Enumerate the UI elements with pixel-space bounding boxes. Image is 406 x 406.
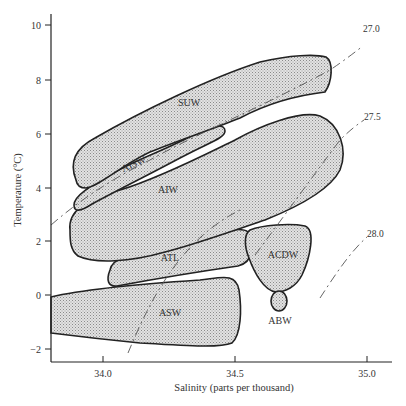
y-tick-10: 10 [31,20,41,31]
isopycnal-28-0-b [320,237,367,298]
y-tick-6: 6 [36,129,41,140]
label-suw: SUW [178,97,201,108]
x-ticks: 34.0 34.5 35.0 [94,356,376,379]
y-tick-8: 8 [36,75,41,86]
y-tick-0: 0 [36,290,41,301]
label-asw: ASW [159,307,182,318]
ts-diagram: SUW AISW AIW ATL ACDW ABW ASW 27.0 27.5 … [0,0,406,406]
x-tick-34-0: 34.0 [94,368,112,379]
region-abw [271,291,287,311]
y-tick-minus-2: −2 [30,344,41,355]
isopycnal-labels: 27.0 27.5 28.0 [363,24,384,239]
y-ticks: 10 8 6 4 2 0 −2 [30,20,51,355]
label-iso-27-5: 27.5 [364,112,381,122]
label-iso-27-0: 27.0 [363,24,380,34]
y-axis-title: Temperature (°C) [12,153,24,227]
x-axis-title: Salinity (parts per thousand) [174,382,294,394]
region-asw [51,277,241,346]
y-tick-2: 2 [36,236,41,247]
label-abw: ABW [268,315,292,326]
y-tick-4: 4 [36,183,41,194]
label-atl: ATL [161,252,179,263]
label-iso-28-0: 28.0 [367,229,384,239]
x-tick-35-0: 35.0 [358,368,376,379]
label-aiw: AIW [158,184,179,195]
x-tick-34-5: 34.5 [226,368,244,379]
label-acdw: ACDW [268,249,299,260]
